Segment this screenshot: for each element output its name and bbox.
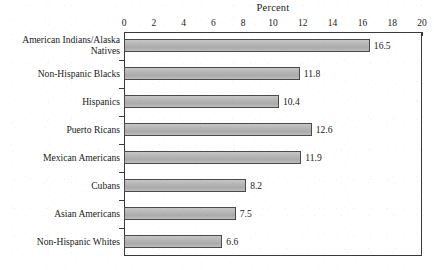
x-tick-mark-20 — [422, 32, 423, 36]
x-tick-label-8: 8 — [241, 18, 246, 28]
bar-value-label: 8.2 — [250, 180, 262, 191]
x-tick-label-2: 2 — [151, 18, 156, 28]
y-tick-mark — [119, 200, 124, 201]
bar — [124, 207, 236, 220]
x-tick-label-16: 16 — [358, 18, 368, 28]
bar-value-label: 12.6 — [316, 124, 333, 135]
bar — [124, 67, 300, 80]
y-tick-mark — [119, 144, 124, 145]
category-label: Non-Hispanic Whites — [0, 236, 120, 247]
x-tick-label-14: 14 — [328, 18, 338, 28]
plot-area — [124, 32, 422, 256]
category-label: Cubans — [0, 180, 120, 191]
x-tick-label-4: 4 — [181, 18, 186, 28]
chart-page: Percent 02468101214161820 16.511.810.412… — [0, 0, 434, 270]
category-label: Puerto Ricans — [0, 124, 120, 135]
y-tick-mark — [119, 172, 124, 173]
x-tick-label-20: 20 — [417, 18, 427, 28]
y-tick-mark — [119, 228, 124, 229]
x-tick-label-0: 0 — [122, 18, 127, 28]
bar-value-label: 6.6 — [226, 236, 238, 247]
bar — [124, 123, 312, 136]
bar-value-label: 11.9 — [305, 152, 321, 163]
bar-value-label: 16.5 — [374, 40, 391, 51]
y-axis-category-labels: American Indians/Alaska NativesNon-Hispa… — [0, 0, 120, 270]
category-label: American Indians/Alaska Natives — [0, 34, 120, 56]
x-tick-label-18: 18 — [387, 18, 397, 28]
y-tick-mark — [119, 88, 124, 89]
category-label: Non-Hispanic Blacks — [0, 68, 120, 79]
bar-value-label: 11.8 — [304, 68, 320, 79]
bar — [124, 151, 301, 164]
category-label: Hispanics — [0, 96, 120, 107]
x-tick-label-10: 10 — [268, 18, 278, 28]
y-tick-mark — [119, 60, 124, 61]
y-tick-mark — [119, 116, 124, 117]
bar-value-label: 7.5 — [240, 208, 252, 219]
category-label: Mexican Americans — [0, 152, 120, 163]
bar-value-label: 10.4 — [283, 96, 300, 107]
x-tick-label-6: 6 — [211, 18, 216, 28]
category-label: Asian Americans — [0, 208, 120, 219]
bar — [124, 235, 222, 248]
bar — [124, 179, 246, 192]
bar — [124, 39, 370, 52]
x-tick-label-12: 12 — [298, 18, 308, 28]
bar — [124, 95, 279, 108]
